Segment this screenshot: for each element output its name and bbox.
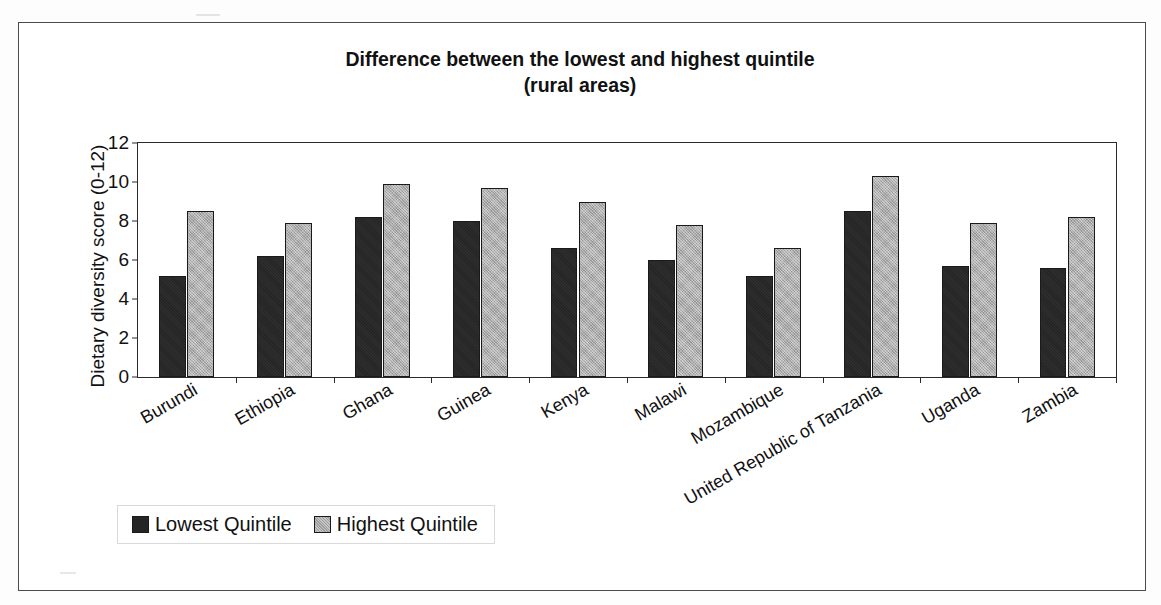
bar-highest-quintile [481,188,508,377]
black-square-icon [132,516,149,533]
bar-group [725,143,823,377]
bar-lowest-quintile [159,276,186,377]
y-tick-label: 0 [118,366,129,388]
bar-group [334,143,432,377]
y-axis-title: Dietary diversity score (0-12) [87,106,109,426]
plot-area: 024681012 [137,142,1117,378]
bar-group [236,143,334,377]
y-tick-label: 12 [108,132,129,154]
x-tick-mark [236,377,237,383]
bar-group [1018,143,1116,377]
chart-legend: Lowest Quintile Highest Quintile [117,505,495,544]
bar-group [920,143,1018,377]
y-tick-label: 6 [118,249,129,271]
gray-square-icon [314,516,331,533]
bar-highest-quintile [872,176,899,377]
bar-group [431,143,529,377]
bar-lowest-quintile [453,221,480,377]
bar-lowest-quintile [746,276,773,377]
bar-highest-quintile [285,223,312,377]
bar-lowest-quintile [551,248,578,377]
legend-entry-lowest: Lowest Quintile [132,513,292,536]
bar-lowest-quintile [257,256,284,377]
chart-title-line-1: Difference between the lowest and highes… [345,48,814,70]
x-tick-mark [725,377,726,383]
x-tick-mark [627,377,628,383]
x-tick-mark [1018,377,1019,383]
x-tick-mark [431,377,432,383]
bar-group [529,143,627,377]
x-tick-mark [529,377,530,383]
chart-title-line-2: (rural areas) [160,72,1000,98]
bar-highest-quintile [187,211,214,377]
y-tick-label: 4 [118,288,129,310]
plot-inner: 024681012 [138,143,1116,377]
bar-group [627,143,725,377]
bar-lowest-quintile [844,211,871,377]
x-tick-mark [920,377,921,383]
y-tick-label: 2 [118,327,129,349]
legend-entry-highest: Highest Quintile [314,513,478,536]
bar-lowest-quintile [648,260,675,377]
bar-group [823,143,921,377]
x-tick-mark [1116,377,1117,383]
chart-page: Difference between the lowest and highes… [0,0,1161,605]
scan-artifact [196,14,220,16]
bar-highest-quintile [970,223,997,377]
bar-highest-quintile [383,184,410,377]
bar-lowest-quintile [942,266,969,377]
y-tick-label: 8 [118,210,129,232]
bar-lowest-quintile [355,217,382,377]
y-tick-label: 10 [108,171,129,193]
x-tick-mark [823,377,824,383]
bar-lowest-quintile [1040,268,1067,377]
legend-label-lowest: Lowest Quintile [155,513,292,536]
bar-highest-quintile [676,225,703,377]
legend-label-highest: Highest Quintile [337,513,478,536]
bar-highest-quintile [774,248,801,377]
bar-highest-quintile [1068,217,1095,377]
chart-title: Difference between the lowest and highes… [160,46,1000,98]
bar-group [138,143,236,377]
x-tick-mark [334,377,335,383]
bar-highest-quintile [579,202,606,378]
